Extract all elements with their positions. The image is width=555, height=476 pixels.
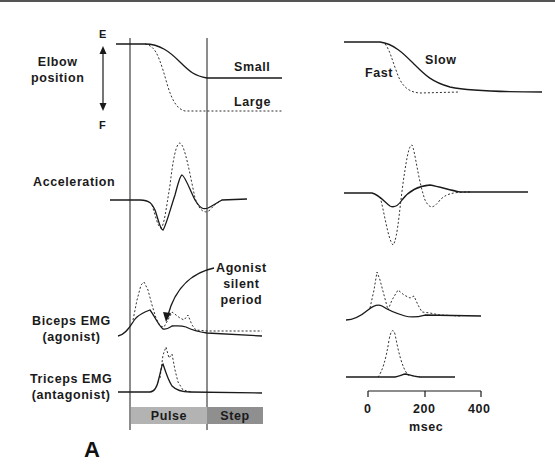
triceps-emg-label: Triceps EMG (antagonist) [30,371,112,403]
biceps-emg-label: Biceps EMG (agonist) [32,313,111,345]
x-tick-0: 0 [364,401,372,417]
axis-label-extension: E [99,26,107,42]
elbow-position-label: Elbow position [31,54,84,86]
acceleration-label: Acceleration [33,174,115,190]
small-trace-label: Small [234,59,270,75]
fast-trace-label: Fast [365,65,393,81]
elbow-axis-arrow-icon [100,46,107,111]
x-tick-200: 200 [413,401,436,417]
axis-label-flexion: F [99,117,106,133]
pulse-phase-bar: Pulse [131,407,207,424]
agonist-silent-period-label: Agonist silent period [216,260,267,308]
panel-letter: A [84,437,100,463]
x-axis-unit-label: msec [409,419,443,435]
slow-trace-label: Slow [425,52,457,68]
right-acceleration-plot [344,145,528,245]
right-biceps-emg-plot [346,272,481,320]
left-triceps-emg-plot [118,347,262,393]
step-phase-bar: Step [207,407,263,424]
x-tick-400: 400 [468,401,491,417]
silent-period-arrow-icon [163,312,171,322]
large-trace-label: Large [234,94,271,110]
right-triceps-emg-plot [346,331,455,377]
time-axis [368,391,481,397]
left-acceleration-plot [110,143,247,230]
